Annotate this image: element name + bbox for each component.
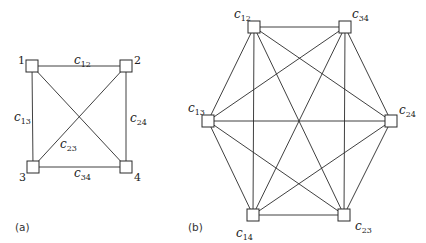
panel-a-edges (32, 66, 126, 167)
panel-b: c12 c34 c13 c24 c14 c23 (b) (188, 7, 416, 242)
edge-c34-c24 (345, 27, 391, 121)
edge-label-c34: c34 (74, 166, 91, 182)
node-2 (120, 60, 132, 72)
node-3-label: 3 (19, 171, 26, 184)
node-c34 (339, 21, 351, 33)
node-c14-label: c14 (236, 226, 253, 242)
panel-b-label: (b) (188, 221, 203, 233)
edge-label-c12: c12 (74, 53, 91, 69)
figure: 1 2 3 4 c12 c13 c24 c23 c34 (a) (0, 0, 426, 243)
node-c14 (247, 209, 259, 221)
edge-c24-c23 (344, 121, 391, 215)
node-3 (27, 161, 39, 173)
edge-label-c23: c23 (60, 137, 77, 153)
edge-c34-c13 (208, 27, 345, 121)
panel-b-edges (208, 27, 391, 215)
edge-c13-c23 (208, 121, 344, 215)
edge-label-c24: c24 (130, 111, 147, 127)
node-1 (26, 60, 38, 72)
edge-c24-c14 (253, 121, 391, 215)
edge-c13-c14 (208, 121, 253, 215)
node-2-label: 2 (134, 54, 141, 67)
edge-1-3 (32, 66, 33, 167)
node-1-label: 1 (18, 54, 25, 67)
node-c23-label: c23 (355, 219, 372, 235)
edge-label-c13: c13 (14, 110, 31, 126)
node-c13-label: c13 (188, 101, 205, 117)
node-4-label: 4 (134, 171, 141, 184)
node-4 (120, 161, 132, 173)
node-c34-label: c34 (352, 7, 369, 23)
node-c24 (385, 115, 397, 127)
node-c24-label: c24 (399, 103, 416, 119)
panel-a: 1 2 3 4 c12 c13 c24 c23 c34 (a) (14, 53, 147, 233)
edge-c12-c13 (208, 27, 254, 121)
node-c23 (338, 209, 350, 221)
node-c12-label: c12 (234, 7, 251, 23)
panel-a-label: (a) (15, 221, 30, 233)
